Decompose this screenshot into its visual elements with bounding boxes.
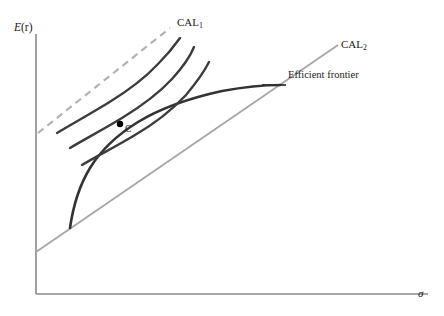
cal2-label-subscript: 2 xyxy=(363,43,367,52)
x-axis-label: σ xyxy=(418,288,423,299)
y-axis-label-arg: (r) xyxy=(21,21,33,33)
axes-group xyxy=(36,34,428,294)
cal1-line xyxy=(38,28,170,133)
optimal-portfolio-label: C xyxy=(125,125,131,135)
cal2-label-text: CAL xyxy=(341,38,363,50)
cal1-label-subscript: 1 xyxy=(199,21,203,30)
cal1-label-text: CAL xyxy=(177,16,199,28)
indifference-curve-2 xyxy=(70,47,194,148)
cal1-label: CAL1 xyxy=(177,17,203,30)
y-axis-label: E(r) xyxy=(14,22,33,34)
efficient-frontier-label: Efficient frontier xyxy=(288,70,359,81)
capital-allocation-line-chart xyxy=(0,0,444,316)
cal2-label: CAL2 xyxy=(341,39,367,52)
y-axis-label-main: E xyxy=(14,21,21,33)
optimal-portfolio-point xyxy=(117,121,123,127)
figure-container: E(r) σ CAL1 CAL2 Efficient frontier C xyxy=(0,0,444,316)
